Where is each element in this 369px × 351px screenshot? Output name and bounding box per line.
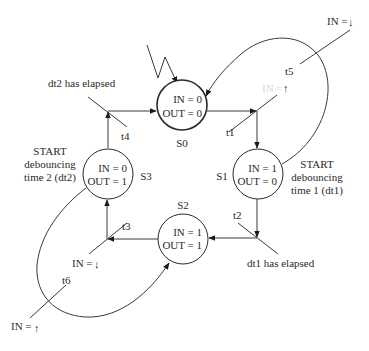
- state-s3-line2: OUT = 1: [87, 175, 127, 187]
- transition-t2-label: t2: [233, 209, 242, 221]
- falling-edge-icon: ↓: [94, 258, 100, 270]
- transition-t4-condition: dt2 has elapsed: [48, 77, 116, 89]
- state-s0-line2: OUT = 0: [162, 107, 202, 119]
- rising-edge-icon: ↑: [283, 82, 289, 94]
- state-s2-line1: IN = 1: [173, 226, 202, 238]
- transition-t4: t4 dt2 has elapsed: [48, 77, 156, 148]
- transition-t1: t1 IN = ↑: [207, 82, 289, 148]
- state-s3: IN = 0 OUT = 1 S3: [83, 149, 152, 199]
- transition-t5-condition: IN =: [327, 15, 348, 27]
- state-s1-line2: OUT = 0: [237, 175, 277, 187]
- state-s0: IN = 0 OUT = 0 S0: [157, 80, 207, 149]
- transition-t3-label: t3: [122, 220, 131, 232]
- s3-action-line1: START: [33, 145, 67, 157]
- transition-t2: t2 dt1 has elapsed: [209, 199, 315, 269]
- s1-action-line1: START: [300, 158, 334, 170]
- rising-edge-icon: ↑: [34, 322, 40, 334]
- transition-t3: t3 IN = ↓: [72, 200, 158, 270]
- transition-t4-label: t4: [121, 130, 130, 142]
- state-s1-name: S1: [216, 170, 228, 182]
- state-diagram: IN = 0 OUT = 0 S0 IN = 1 OUT = 0 S1 IN =…: [0, 0, 369, 351]
- state-s3-name: S3: [140, 170, 152, 182]
- state-s2-line2: OUT = 1: [162, 239, 202, 251]
- state-s2: IN = 1 OUT = 1 S2: [158, 199, 208, 264]
- transition-t5-label: t5: [285, 65, 294, 77]
- state-s1: IN = 1 OUT = 0 S1: [216, 149, 283, 199]
- state-s0-name: S0: [176, 137, 188, 149]
- transition-t2-condition: dt1 has elapsed: [247, 257, 315, 269]
- s3-action-line3: time 2 (dt2): [24, 171, 76, 184]
- s3-action-line2: debouncing: [24, 158, 76, 170]
- transition-t6-label: t6: [62, 274, 71, 286]
- s1-action-line3: time 1 (dt1): [291, 184, 343, 197]
- state-s3-line1: IN = 0: [98, 162, 127, 174]
- initial-state-squiggle: [147, 45, 177, 83]
- s3-action-note: START debouncing time 2 (dt2): [24, 145, 76, 184]
- transition-t1-condition: IN =: [262, 82, 283, 94]
- s1-action-line2: debouncing: [291, 171, 343, 183]
- state-s1-line1: IN = 1: [248, 162, 277, 174]
- transition-t6-condition: IN =: [11, 320, 32, 332]
- s1-action-note: START debouncing time 1 (dt1): [291, 158, 343, 197]
- state-s0-line1: IN = 0: [173, 93, 202, 105]
- state-s2-name: S2: [177, 199, 189, 211]
- transition-t1-label: t1: [226, 126, 235, 138]
- falling-edge-icon: ↓: [348, 16, 354, 28]
- transition-t3-condition: IN =: [72, 257, 93, 269]
